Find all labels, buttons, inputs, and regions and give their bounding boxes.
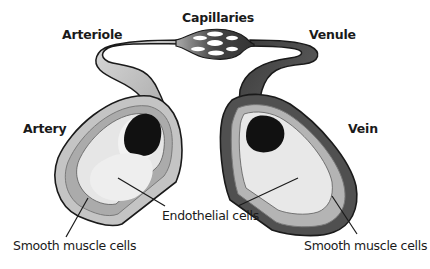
artery-cross-section [55, 96, 182, 226]
label-endothelial-cells: Endothelial cells [162, 208, 259, 223]
capillary-bed [176, 29, 254, 59]
label-venule: Venule [309, 27, 356, 42]
vein-blood-lumen [246, 116, 284, 153]
label-vein: Vein [348, 121, 378, 136]
label-artery: Artery [23, 121, 66, 136]
label-arteriole: Arteriole [62, 27, 122, 42]
label-smooth-muscle-left: Smooth muscle cells [13, 238, 136, 253]
label-capillaries: Capillaries [182, 10, 254, 25]
label-smooth-muscle-right: Smooth muscle cells [304, 238, 427, 253]
